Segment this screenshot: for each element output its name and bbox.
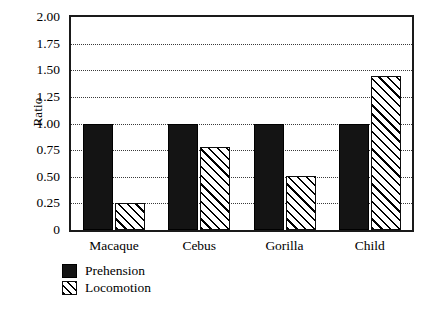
plot-area — [69, 15, 414, 232]
bar-macaque-prehension — [83, 124, 113, 231]
legend-swatch-prehension — [62, 264, 77, 278]
x-axis-tick-label-child: Child — [355, 238, 385, 254]
gridline — [71, 97, 412, 98]
bar-gorilla-prehension — [254, 124, 284, 231]
legend-swatch-locomotion — [62, 281, 77, 295]
y-axis-tick-label: 2.00 — [14, 10, 60, 24]
x-axis-tick-label-macaque: Macaque — [89, 238, 138, 254]
bar-gorilla-locomotion — [286, 176, 316, 230]
bar-cebus-locomotion — [200, 147, 230, 230]
legend-label-prehension: Prehension — [85, 263, 145, 279]
bar-cebus-prehension — [168, 124, 198, 231]
y-axis-tick-label: 0.25 — [14, 196, 60, 210]
legend-item-locomotion: Locomotion — [62, 279, 151, 296]
bar-chart-figure: Ratio 00.250.500.751.001.251.501.752.00 … — [0, 0, 432, 311]
bar-macaque-locomotion — [115, 203, 145, 230]
y-axis-tick-label: 0.50 — [14, 170, 60, 184]
legend: PrehensionLocomotion — [62, 262, 151, 296]
legend-item-prehension: Prehension — [62, 262, 151, 279]
legend-label-locomotion: Locomotion — [85, 280, 151, 296]
bar-child-prehension — [339, 124, 369, 231]
y-axis-tick-label: 1.25 — [14, 90, 60, 104]
x-axis-tick-label-gorilla: Gorilla — [265, 238, 303, 254]
y-axis-tick-label: 0 — [14, 223, 60, 237]
y-axis-tick-label: 1.50 — [14, 63, 60, 77]
y-axis-tick-label: 0.75 — [14, 143, 60, 157]
gridline — [71, 70, 412, 71]
gridline — [71, 44, 412, 45]
y-axis-tick-label: 1.75 — [14, 37, 60, 51]
y-axis-tick-label: 1.00 — [14, 117, 60, 131]
x-axis-tick-label-cebus: Cebus — [182, 238, 216, 254]
bar-child-locomotion — [371, 76, 401, 230]
